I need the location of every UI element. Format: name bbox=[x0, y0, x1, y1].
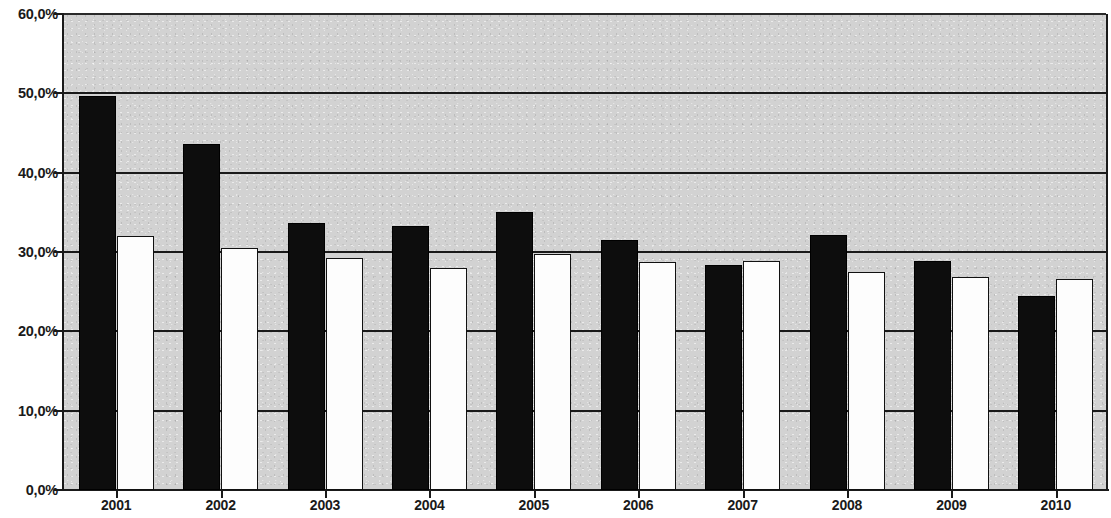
y-axis-tick-mark bbox=[54, 330, 64, 332]
bar-2007-series-1 bbox=[705, 265, 742, 490]
bar-2004-series-2 bbox=[430, 268, 467, 490]
x-axis-tick-label-2001: 2001 bbox=[101, 497, 131, 513]
y-axis-tick-mark bbox=[54, 172, 64, 174]
y-axis-tick-label: 60,0% bbox=[4, 6, 58, 22]
x-axis-tick-label-2008: 2008 bbox=[832, 497, 862, 513]
bar-2008-series-2 bbox=[848, 272, 885, 490]
gridline bbox=[64, 172, 1106, 174]
x-axis-tick-label-2002: 2002 bbox=[205, 497, 235, 513]
bar-2007-series-2 bbox=[743, 261, 780, 490]
y-axis-tick-mark bbox=[54, 92, 64, 94]
y-axis-tick-label: 30,0% bbox=[4, 244, 58, 260]
x-axis-tick-label-2004: 2004 bbox=[414, 497, 444, 513]
y-axis-label-group: 0,0%10,0%20,0%30,0%40,0%50,0%60,0% bbox=[0, 0, 58, 518]
bar-2010-series-1 bbox=[1018, 296, 1055, 490]
x-axis-tick-label-2010: 2010 bbox=[1041, 497, 1071, 513]
bar-2009-series-1 bbox=[914, 261, 951, 490]
y-axis-tick-label: 10,0% bbox=[4, 403, 58, 419]
y-axis-tick-label: 50,0% bbox=[4, 85, 58, 101]
bar-2002-series-2 bbox=[221, 248, 258, 490]
bar-2006-series-1 bbox=[601, 240, 638, 490]
x-axis-tick-label-2005: 2005 bbox=[519, 497, 549, 513]
bar-2001-series-2 bbox=[117, 236, 154, 490]
bar-chart: 0,0%10,0%20,0%30,0%40,0%50,0%60,0% 20012… bbox=[0, 0, 1111, 518]
y-axis-tick-mark bbox=[54, 410, 64, 412]
y-axis-tick-mark bbox=[54, 489, 64, 491]
x-axis-tick-label-2009: 2009 bbox=[936, 497, 966, 513]
x-axis-label-group: 2001200220032004200520062007200820092010 bbox=[0, 497, 1111, 518]
bar-2002-series-1 bbox=[183, 144, 220, 490]
y-axis-tick-label: 20,0% bbox=[4, 323, 58, 339]
bar-2008-series-1 bbox=[810, 235, 847, 490]
bar-2006-series-2 bbox=[639, 262, 676, 490]
bar-2003-series-1 bbox=[288, 223, 325, 490]
bar-2005-series-1 bbox=[496, 212, 533, 490]
bar-2003-series-2 bbox=[326, 258, 363, 490]
x-axis-tick-label-2007: 2007 bbox=[727, 497, 757, 513]
bar-2004-series-1 bbox=[392, 226, 429, 490]
bar-2005-series-2 bbox=[534, 254, 571, 490]
bar-2009-series-2 bbox=[952, 277, 989, 490]
plot-area bbox=[64, 14, 1108, 490]
y-axis-tick-mark bbox=[54, 251, 64, 253]
gridline bbox=[64, 13, 1106, 15]
bar-2001-series-1 bbox=[79, 96, 116, 490]
x-axis-tick-label-2006: 2006 bbox=[623, 497, 653, 513]
x-axis-tick-label-2003: 2003 bbox=[310, 497, 340, 513]
y-axis-tick-mark bbox=[54, 13, 64, 15]
gridline bbox=[64, 92, 1106, 94]
y-axis-tick-label: 0,0% bbox=[4, 482, 58, 498]
bar-2010-series-2 bbox=[1056, 279, 1093, 490]
y-axis-tick-label: 40,0% bbox=[4, 165, 58, 181]
